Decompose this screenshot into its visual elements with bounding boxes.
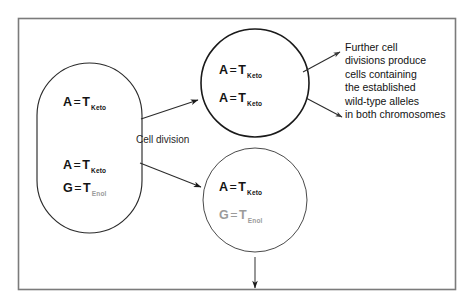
db2-right-base: T — [239, 208, 247, 222]
daughter-bottom-pair-2: G=TEnol — [219, 209, 262, 222]
daughter-cell-bottom-outline — [203, 148, 307, 252]
arrow-parent-to-bottom — [140, 163, 201, 187]
daughter-top-pair-2: A=TKeto — [219, 92, 261, 105]
arrow-top-to-note-upper — [303, 52, 340, 72]
daughter-cell-top-outline — [201, 29, 309, 137]
parent-b1-left-base: A — [63, 158, 72, 172]
note-line-3: cells containing — [345, 68, 445, 81]
dt1-subscript: Keto — [247, 72, 262, 79]
parent-top-pair: A=TKeto — [63, 96, 105, 109]
cell-division-label: Cell division — [136, 135, 189, 145]
parent-b2-subscript: Enol — [92, 190, 107, 197]
db1-subscript: Keto — [247, 189, 262, 196]
parent-b2-equals: = — [73, 181, 83, 195]
dt2-left-base: A — [219, 91, 228, 105]
dt2-equals: = — [228, 91, 238, 105]
arrow-top-to-note-lower — [306, 98, 342, 117]
parent-b2-right-base: T — [83, 181, 91, 195]
arrow-parent-to-top — [141, 100, 198, 119]
parent-b1-subscript: Keto — [91, 167, 106, 174]
dt1-left-base: A — [219, 63, 228, 77]
dt1-right-base: T — [238, 63, 246, 77]
further-divisions-note: Further cell divisions produce cells con… — [345, 41, 445, 121]
parent-top-right-base: T — [82, 95, 90, 109]
db1-right-base: T — [238, 180, 246, 194]
parent-top-equals: = — [72, 95, 82, 109]
note-line-4: the established — [345, 81, 445, 94]
parent-bottom-pair-2: G=TEnol — [63, 182, 106, 195]
db1-equals: = — [228, 180, 238, 194]
note-line-1: Further cell — [345, 41, 445, 54]
note-line-6: in both chromosomes — [345, 108, 445, 121]
daughter-top-pair-1: A=TKeto — [219, 64, 261, 77]
parent-cell-outline — [37, 63, 142, 233]
figure-canvas: A=TKeto A=TKeto G=TEnol Cell division A=… — [0, 0, 474, 308]
parent-bottom-pair-1: A=TKeto — [63, 159, 105, 172]
db1-left-base: A — [219, 180, 228, 194]
daughter-bottom-pair-1: A=TKeto — [219, 181, 261, 194]
parent-b1-right-base: T — [82, 158, 90, 172]
dt2-subscript: Keto — [247, 100, 262, 107]
note-line-2: divisions produce — [345, 54, 445, 67]
db2-equals: = — [229, 208, 239, 222]
db2-subscript: Enol — [248, 217, 263, 224]
parent-b2-left-base: G — [63, 181, 73, 195]
parent-b1-equals: = — [72, 158, 82, 172]
dt2-right-base: T — [238, 91, 246, 105]
db2-left-base: G — [219, 208, 229, 222]
dt1-equals: = — [228, 63, 238, 77]
note-line-5: wild-type alleles — [345, 95, 445, 108]
parent-top-left-base: A — [63, 95, 72, 109]
parent-top-subscript: Keto — [91, 104, 106, 111]
